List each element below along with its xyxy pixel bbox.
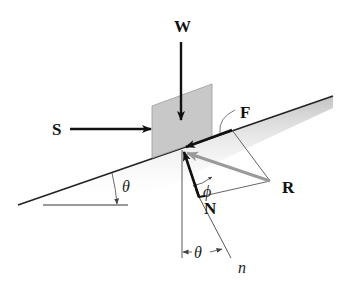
fbd-diagram: θ n θ ϕ R N F W S bbox=[0, 0, 359, 282]
force-S-label: S bbox=[52, 120, 61, 139]
force-N-label: N bbox=[204, 199, 217, 218]
force-W-label: W bbox=[174, 17, 191, 36]
theta-normal-arrow-right bbox=[210, 249, 222, 252]
normal-axis-label: n bbox=[238, 259, 246, 276]
force-F-label: F bbox=[240, 103, 250, 122]
theta-normal-label: θ bbox=[194, 244, 202, 261]
theta-incline-label: θ bbox=[122, 178, 130, 195]
force-R-label: R bbox=[282, 178, 295, 197]
force-F-leader bbox=[220, 110, 235, 133]
